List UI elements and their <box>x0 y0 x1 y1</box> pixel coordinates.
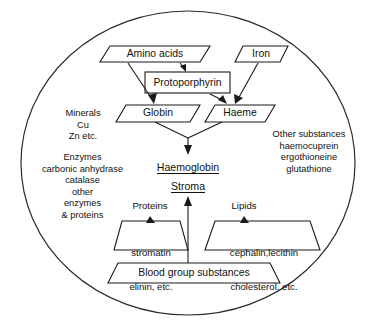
iron-label: Iron <box>252 48 270 59</box>
minerals-annotation: Minerals Cu Zn etc. <box>38 108 128 143</box>
amino-acids-label: Amino acids <box>127 48 184 59</box>
globin-label: Globin <box>143 107 173 118</box>
proteins-box-line1: stromatin <box>114 247 188 258</box>
other-substances-annotation: Other substances haemocuprein ergothione… <box>250 129 368 175</box>
haeme-label: Haeme <box>223 107 257 118</box>
proteins-box-label: stromatin elinin, etc. <box>114 224 188 315</box>
stroma-label: Stroma <box>138 180 238 192</box>
connector-lipids-heading-to-box <box>240 216 249 223</box>
enzymes-annotation: Enzymes carbonic anhydrase catalase othe… <box>20 152 145 222</box>
lipids-box-line1: cephalin,lecithin <box>207 247 321 258</box>
haemoglobin-label: Haemoglobin <box>138 161 238 173</box>
connector-amino-acids-to-protoporphyrin <box>180 63 186 72</box>
lipids-box-label: cephalin,lecithin cholesterol, etc. <box>207 224 321 315</box>
stroma-text: Stroma <box>171 180 205 193</box>
lipids-heading: Lipids <box>215 200 273 211</box>
diagram-canvas: Amino acids Iron Protoporphyrin Globin H… <box>0 0 378 323</box>
connector-proteins-heading-to-box <box>146 216 155 223</box>
haemoglobin-text: Haemoglobin <box>157 161 219 174</box>
proteins-heading: Proteins <box>118 200 182 211</box>
connector-iron-to-haeme <box>234 63 258 104</box>
connector-globin-haeme-to-haemoglobin <box>155 122 222 155</box>
connector-protoporphyrin-to-haeme <box>210 94 227 104</box>
proteins-box-line2: elinin, etc. <box>114 281 188 292</box>
lipids-box-line2: cholesterol, etc. <box>207 281 321 292</box>
protoporphyrin-label: Protoporphyrin <box>153 77 221 88</box>
